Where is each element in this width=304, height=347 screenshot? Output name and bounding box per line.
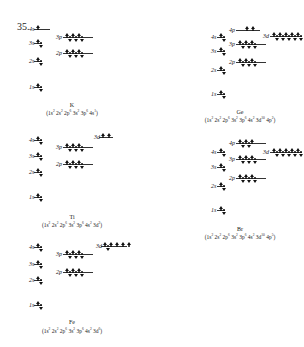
electron-up-arrow-icon <box>37 25 39 34</box>
electron-configuration: (1s2 2s2 2p6 3s2 3p6 4s2 3d10 4p2) <box>170 116 304 123</box>
orbital-label-3p: 3p <box>56 34 62 40</box>
orbital-label-1s: 1s <box>211 91 216 97</box>
orbital-label-2p: 2p <box>56 50 62 56</box>
element-symbol-k: K <box>2 102 142 108</box>
electron-configuration: (1s2 2s2 2p6 3s2 3p6 4s2 3d6) <box>2 327 142 334</box>
orbital-label-3p: 3p <box>229 156 235 162</box>
orbital-label-3s: 3s <box>211 164 216 170</box>
orbital-label-3d: 3d <box>263 33 269 39</box>
electron-dn-arrow-icon <box>40 301 42 310</box>
element-symbol-ti: Ti <box>2 214 142 220</box>
electron-configuration: (1s2 2s2 2p6 3s2 3p6 4s2 3d2) <box>2 221 142 228</box>
electron-dn-arrow-icon <box>40 260 42 269</box>
element-symbol-ge: Ge <box>170 109 304 115</box>
problem-number: 35. <box>17 21 30 32</box>
element-symbol-br: Br <box>170 226 304 232</box>
electron-up-arrow-icon <box>110 242 112 251</box>
electron-dn-arrow-icon <box>300 148 302 157</box>
electron-dn-arrow-icon <box>81 268 83 277</box>
electron-dn-arrow-icon <box>81 33 83 42</box>
electron-dn-arrow-icon <box>40 83 42 92</box>
orbital-label-4s: 4s <box>211 149 216 155</box>
electron-dn-arrow-icon <box>81 160 83 169</box>
orbital-label-2p: 2p <box>56 161 62 167</box>
electron-dn-arrow-icon <box>254 155 256 164</box>
electron-dn-arrow-icon <box>300 32 302 41</box>
electron-dn-arrow-icon <box>254 174 256 183</box>
orbital-label-2p: 2p <box>56 269 62 275</box>
electron-dn-arrow-icon <box>223 90 225 99</box>
electron-dn-arrow-icon <box>223 33 225 42</box>
orbital-label-1s: 1s <box>211 207 216 213</box>
electron-dn-arrow-icon <box>223 206 225 215</box>
orbital-label-2p: 2p <box>229 175 235 181</box>
electron-dn-arrow-icon <box>223 47 225 56</box>
electron-dn-arrow-icon <box>223 66 225 75</box>
orbital-label-2s: 2s <box>211 183 216 189</box>
orbital-label-3p: 3p <box>229 41 235 47</box>
orbital-label-4p: 4p <box>229 27 235 33</box>
electron-dn-arrow-icon <box>40 168 42 177</box>
electron-up-arrow-icon <box>108 133 110 142</box>
orbital-label-3s: 3s <box>211 48 216 54</box>
electron-configuration: (1s2 2s2 2p6 3s2 3p6 4s2 3d10 4p5) <box>170 233 304 240</box>
electron-up-arrow-icon <box>122 242 124 251</box>
electron-dn-arrow-icon <box>254 58 256 67</box>
orbital-line-4p <box>236 30 260 31</box>
orbital-label-4p: 4p <box>229 140 235 146</box>
electron-dn-arrow-icon <box>40 152 42 161</box>
electron-dn-arrow-icon <box>40 39 42 48</box>
electron-dn-arrow-icon <box>40 136 42 145</box>
electron-dn-arrow-icon <box>81 250 83 259</box>
orbital-label-2s: 2s <box>211 67 216 73</box>
electron-dn-arrow-icon <box>40 243 42 252</box>
electron-up-arrow-icon <box>251 139 253 148</box>
electron-up-arrow-icon <box>252 26 254 35</box>
electron-up-arrow-icon <box>102 133 104 142</box>
electron-dn-arrow-icon <box>81 143 83 152</box>
electron-dn-arrow-icon <box>223 148 225 157</box>
orbital-label-3p: 3p <box>56 251 62 257</box>
orbital-label-2p: 2p <box>229 59 235 65</box>
electron-dn-arrow-icon <box>40 57 42 66</box>
electron-up-arrow-icon <box>246 26 248 35</box>
orbital-label-4s: 4s <box>211 34 216 40</box>
electron-up-arrow-icon <box>128 242 130 251</box>
orbital-label-3d: 3d <box>263 149 269 155</box>
electron-up-arrow-icon <box>116 242 118 251</box>
electron-dn-arrow-icon <box>40 276 42 285</box>
orbital-label-3p: 3p <box>56 144 62 150</box>
electron-dn-arrow-icon <box>223 182 225 191</box>
electron-dn-arrow-icon <box>254 40 256 49</box>
electron-dn-arrow-icon <box>40 193 42 202</box>
electron-dn-arrow-icon <box>223 163 225 172</box>
electron-dn-arrow-icon <box>81 49 83 58</box>
element-symbol-fe: Fe <box>2 319 142 325</box>
electron-configuration: (1s2 2s2 2p6 3s2 3p6 4s1) <box>2 109 142 116</box>
